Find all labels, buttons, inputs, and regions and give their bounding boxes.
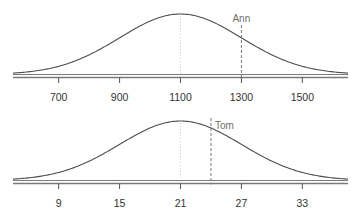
panel-bottom: Tom 915212733	[13, 118, 348, 209]
chart-container: Ann 700900110013001500 Tom 915212733	[0, 0, 360, 223]
x-tick-label: 21	[175, 197, 187, 209]
x-tick-label: 9	[56, 197, 62, 209]
x-tick-label: 700	[50, 91, 68, 103]
panel-top: Ann 700900110013001500	[13, 13, 348, 103]
marker-label-tom: Tom	[215, 120, 234, 131]
x-tick-label: 27	[236, 197, 248, 209]
marker-label-ann: Ann	[232, 13, 250, 24]
x-tick-label: 900	[111, 91, 129, 103]
x-tick-label: 15	[114, 197, 126, 209]
x-axis-ticks: 915212733	[56, 184, 309, 210]
x-tick-label: 33	[296, 197, 308, 209]
distribution-charts: Ann 700900110013001500 Tom 915212733	[0, 0, 360, 223]
x-tick-label: 1100	[169, 91, 192, 103]
x-tick-label: 1500	[291, 91, 315, 103]
x-tick-label: 1300	[230, 91, 254, 103]
x-axis-ticks: 700900110013001500	[50, 78, 314, 104]
